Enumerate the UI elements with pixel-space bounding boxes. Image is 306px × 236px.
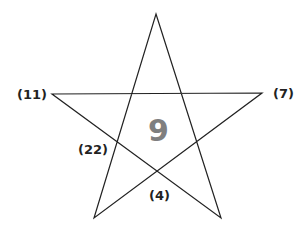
label-bottom: (4) — [149, 189, 170, 202]
label-lower-left: (22) — [78, 143, 108, 156]
label-right: (7) — [273, 87, 294, 100]
center-value: 9 — [148, 116, 169, 146]
label-left: (11) — [17, 88, 47, 101]
